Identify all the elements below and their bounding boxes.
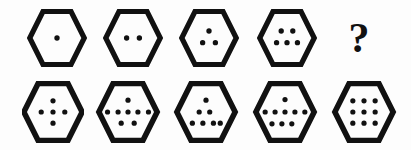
hexagon-outline-icon [249,81,321,143]
missing-item-placeholder: ? [334,6,384,70]
hexagon-outline-icon [26,9,88,67]
hexagon-shape[interactable]: 2 [93,81,163,143]
option-number-label: 1 [42,80,46,88]
option-number-label: 2 [113,80,117,88]
option-number-label: 3 [191,80,195,88]
option-number-label: 5 [349,80,353,88]
hexagon-shape [26,9,88,67]
hexagon-outline-icon [329,81,399,143]
hexagon-shape[interactable]: 4 [249,81,321,143]
hexagon-outline-icon [22,81,84,143]
hexagon-outline-icon [178,9,240,67]
hexagon-shape [256,9,318,67]
hexagon-shape [178,9,240,67]
hexagon-shape[interactable]: 3 [171,81,241,143]
options-row: 12345 [0,76,411,148]
hexagon-outline-icon [256,9,318,67]
sequence-hexagon [170,6,248,70]
hexagon-shape[interactable]: 5 [329,81,399,143]
sequence-hexagon [18,6,96,70]
sequence-hexagon [94,6,172,70]
question-mark-icon: ? [349,17,370,59]
puzzle-canvas: ? 12345 [0,0,411,150]
option-hexagon-1[interactable]: 1 [18,76,88,148]
hexagon-shape [102,9,164,67]
option-hexagon-4[interactable]: 4 [246,76,324,148]
sequence-hexagon [246,6,328,70]
hexagon-outline-icon [93,81,163,143]
option-number-label: 4 [269,80,273,88]
hexagon-shape[interactable]: 1 [22,81,84,143]
sequence-row: ? [0,6,411,70]
option-hexagon-5[interactable]: 5 [326,76,402,148]
hexagon-outline-icon [102,9,164,67]
option-hexagon-3[interactable]: 3 [168,76,244,148]
hexagon-outline-icon [171,81,241,143]
option-hexagon-2[interactable]: 2 [90,76,166,148]
